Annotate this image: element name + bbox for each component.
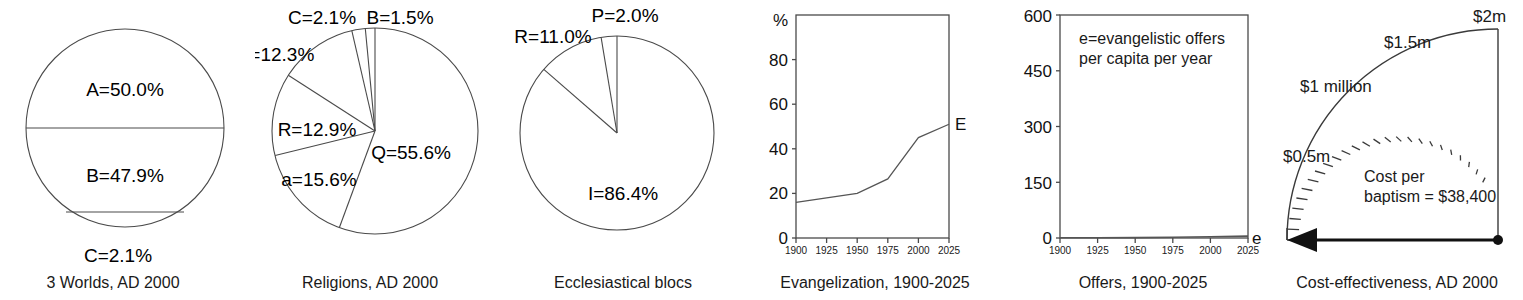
plot-frame-evangelization — [796, 15, 949, 238]
pie-sep-t-c — [352, 31, 375, 131]
xtick-label-1950: 1950 — [846, 245, 869, 256]
panel-three-worlds: A=50.0% B=47.9% C=2.1% 3 Worlds, AD 2000 — [0, 0, 255, 300]
gauge-scale-label-1m: $1 million — [1300, 77, 1372, 96]
pie-label-c: C=2.1% — [84, 245, 152, 266]
gauge-scale-label-2m: $2m — [1473, 7, 1506, 26]
xtick-label-1925: 1925 — [815, 245, 838, 256]
ytick-label-600: 600 — [1024, 7, 1052, 26]
pie-label-q: Q=55.6% — [371, 142, 451, 163]
ytick-label-40: 40 — [769, 140, 788, 159]
gauge-scale-label-05m: $0.5m — [1283, 147, 1330, 166]
series-label-E: E — [955, 115, 966, 134]
pie-sep-c-b — [365, 29, 375, 132]
pie-label-c: C=2.1% — [288, 7, 356, 28]
gauge-arc — [1287, 29, 1498, 240]
panel-ecclesiastical-blocs: I=86.4% R=11.0% P=2.0% Ecclesiastical bl… — [505, 0, 750, 300]
pie-label-i: I=86.4% — [588, 183, 658, 204]
gauge-pivot — [1493, 235, 1503, 245]
pie-label-a: a=15.6% — [281, 169, 357, 190]
gauge-annotation-line2: baptism = $38,400 — [1364, 188, 1496, 205]
panel-caption-three-worlds: 3 Worlds, AD 2000 — [46, 274, 179, 291]
pie-sep-i-r — [544, 69, 617, 133]
offers-annotation-line2: per capita per year — [1079, 50, 1213, 67]
xtick-label-2000: 2000 — [1199, 245, 1222, 256]
xtick-label-1975: 1975 — [1162, 245, 1185, 256]
gauge-annotation-line1: Cost per — [1364, 168, 1425, 185]
xtick-label-1900: 1900 — [1049, 245, 1072, 256]
xtick-label-1925: 1925 — [1086, 245, 1109, 256]
ytick-label-60: 60 — [769, 95, 788, 114]
xtick-label-1975: 1975 — [877, 245, 900, 256]
panel-religions: Q=55.6% a=15.6% R=12.9% T=12.3% C=2.1% B… — [255, 0, 505, 300]
panel-caption-religions: Religions, AD 2000 — [302, 274, 438, 291]
pie-label-a: A=50.0% — [86, 79, 164, 100]
ytick-label-20: 20 — [769, 184, 788, 203]
panel-caption-blocs: Ecclesiastical blocs — [554, 274, 692, 291]
ytick-label-80: 80 — [769, 51, 788, 70]
plot-frame-offers — [1060, 15, 1248, 238]
pie-label-t: T=12.3% — [255, 44, 314, 65]
panel-evangelization: % 80 60 40 20 0 1900 1925 1950 1975 2000… — [750, 0, 1008, 300]
panel-caption-cost-effectiveness: Cost-effectiveness, AD 2000 — [1296, 274, 1498, 291]
pie-label-r: R=11.0% — [514, 26, 591, 47]
ytick-label-150: 150 — [1024, 174, 1052, 193]
panel-offers: 600 450 300 150 0 1900 1925 1950 1975 20… — [1008, 0, 1270, 300]
data-line-evangelization — [796, 124, 949, 202]
pie-sep-r-p — [601, 37, 617, 133]
ylabel-percent: % — [773, 11, 788, 30]
panel-caption-evangelization: Evangelization, 1900-2025 — [780, 274, 970, 291]
gauge-needle-arrowhead — [1287, 228, 1317, 252]
ytick-label-450: 450 — [1024, 62, 1052, 81]
panel-cost-effectiveness: $0.5m $1 million $1.5m $2m Cost per bapt… — [1270, 0, 1523, 300]
xtick-label-2000: 2000 — [907, 245, 930, 256]
xtick-label-1900: 1900 — [785, 245, 808, 256]
series-label-e: e — [1252, 229, 1261, 248]
pie-label-b: B=47.9% — [86, 165, 164, 186]
pie-label-b: B=1.5% — [366, 7, 433, 28]
pie-label-p: P=2.0% — [591, 5, 658, 26]
gauge-scale-label-15m: $1.5m — [1384, 33, 1431, 52]
pie-label-r: R=12.9% — [278, 119, 357, 140]
offers-annotation-line1: e=evangelistic offers — [1079, 30, 1225, 47]
panel-caption-offers: Offers, 1900-2025 — [1079, 274, 1208, 291]
xtick-label-2025: 2025 — [938, 245, 961, 256]
xtick-label-1950: 1950 — [1124, 245, 1147, 256]
figure-panel-strip: A=50.0% B=47.9% C=2.1% 3 Worlds, AD 2000… — [0, 0, 1523, 300]
ytick-label-300: 300 — [1024, 118, 1052, 137]
